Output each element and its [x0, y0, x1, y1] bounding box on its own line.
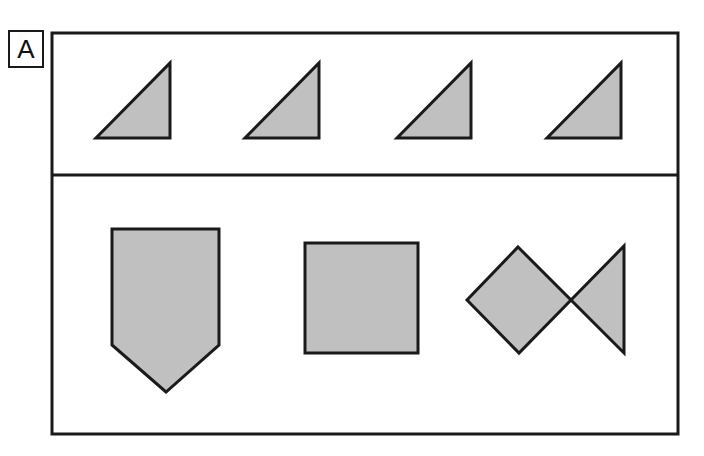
triangle-4 — [547, 63, 621, 138]
pentagon-shield — [112, 229, 219, 392]
triangle-3 — [397, 63, 471, 138]
shapes-figure — [0, 0, 704, 456]
triangle-1 — [96, 63, 170, 138]
triangle-2 — [245, 63, 319, 138]
left-pointing-triangle — [571, 246, 624, 353]
square — [305, 243, 418, 353]
diamond — [467, 247, 571, 353]
figure-canvas: A — [0, 0, 704, 456]
